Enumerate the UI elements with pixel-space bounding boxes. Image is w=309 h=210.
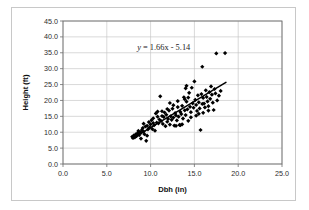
data-point <box>206 109 210 113</box>
data-point <box>192 79 196 83</box>
data-point <box>214 51 218 55</box>
data-point <box>212 108 216 112</box>
data-point <box>223 51 227 55</box>
y-tick-label: 25.0 <box>44 80 58 89</box>
y-axis-title-text: Height (ft) <box>21 74 30 110</box>
x-axis-title-text: Dbh (in) <box>158 185 187 194</box>
data-point <box>209 84 213 88</box>
data-point <box>176 105 180 109</box>
y-tick-label: 20.0 <box>44 96 58 105</box>
regression-equation-label: y = 1.66x - 5.14 <box>136 43 191 52</box>
data-point <box>181 116 185 120</box>
y-axis-title: Height (ft) <box>21 74 30 110</box>
data-point <box>197 100 201 104</box>
y-tick-label: 15.0 <box>44 112 58 121</box>
data-point <box>171 103 175 107</box>
x-tick-label: 25.0 <box>275 169 289 178</box>
data-point <box>219 89 223 93</box>
y-axis-tick-labels: 0.05.010.015.020.025.030.035.040.045.0 <box>44 17 58 169</box>
x-axis-title: Dbh (in) <box>158 185 187 194</box>
data-point <box>211 101 215 105</box>
data-point <box>210 93 214 97</box>
x-tick-label: 20.0 <box>231 169 245 178</box>
x-axis-tick-labels: 0.05.010.015.020.025.0 <box>58 169 289 178</box>
y-tick-label: 10.0 <box>44 128 58 137</box>
x-tick-label: 5.0 <box>102 169 112 178</box>
data-point <box>191 106 195 110</box>
data-point <box>168 122 172 126</box>
y-tick-label: 0.0 <box>48 160 58 169</box>
data-point <box>158 94 162 98</box>
equation-text: y = 1.66x - 5.14 <box>136 43 191 52</box>
data-point <box>200 65 204 69</box>
data-points-group <box>130 51 227 143</box>
y-tick-label: 45.0 <box>44 17 58 26</box>
trendline-segment <box>132 82 226 138</box>
data-point <box>205 99 209 103</box>
y-tick-label: 35.0 <box>44 48 58 57</box>
data-point <box>139 136 143 140</box>
chart-frame: 0.05.010.015.020.025.030.035.040.045.0 0… <box>11 7 296 201</box>
trendline <box>132 82 226 138</box>
data-point <box>213 91 217 95</box>
data-point <box>203 105 207 109</box>
x-tick-label: 15.0 <box>187 169 201 178</box>
data-point <box>189 110 193 114</box>
data-point <box>187 91 191 95</box>
data-point <box>201 111 205 115</box>
data-point <box>204 88 208 92</box>
data-point <box>175 118 179 122</box>
data-point <box>196 93 200 97</box>
y-tick-label: 40.0 <box>44 32 58 41</box>
data-point <box>198 106 202 110</box>
x-tick-label: 10.0 <box>144 169 158 178</box>
x-tick-label: 0.0 <box>58 169 68 178</box>
data-point <box>215 98 219 102</box>
data-point <box>206 104 210 108</box>
data-point <box>190 86 194 90</box>
data-point <box>217 94 221 98</box>
equation-body: = 1.66x - 5.14 <box>141 43 191 52</box>
scatter-chart: 0.05.010.015.020.025.030.035.040.045.0 0… <box>12 8 297 202</box>
data-point <box>144 139 148 143</box>
data-point <box>186 119 190 123</box>
data-point <box>176 99 180 103</box>
data-point <box>186 95 190 99</box>
y-tick-label: 30.0 <box>44 64 58 73</box>
y-tick-label: 5.0 <box>48 144 58 153</box>
data-point <box>189 115 193 119</box>
data-point <box>170 107 174 111</box>
data-point <box>168 101 172 105</box>
data-point <box>198 128 202 132</box>
